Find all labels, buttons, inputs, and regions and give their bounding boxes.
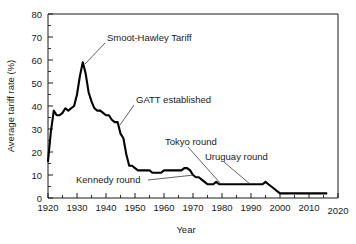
- x-tick-label-2000: 2000: [269, 202, 290, 213]
- x-tick-label-1920: 1920: [37, 202, 58, 213]
- annotation-kennedy: Kennedy round: [76, 174, 140, 185]
- y-tick-label-50: 50: [31, 78, 42, 89]
- y-tick-label-20: 20: [31, 147, 42, 158]
- annotation-tokyo: Tokyo round: [165, 136, 217, 147]
- y-axis-title: Average tariff rate (%): [5, 60, 16, 153]
- y-axis-tick-labels: 0 10 20 30 40 50 60 70 80: [31, 9, 42, 204]
- x-tick-label-2010: 2010: [298, 202, 319, 213]
- x-tick-label-1970: 1970: [182, 202, 203, 213]
- x-tick-label-1980: 1980: [211, 202, 232, 213]
- tariff-rate-chart-figure: 0 10 20 30 40 50 60 70 80 1920 1930 1940…: [0, 0, 356, 244]
- x-tick-label-1950: 1950: [124, 202, 145, 213]
- x-tick-label-1940: 1940: [95, 202, 116, 213]
- x-axis-title: Year: [176, 224, 195, 235]
- y-tick-label-30: 30: [31, 124, 42, 135]
- x-tick-label-1990: 1990: [240, 202, 261, 213]
- y-tick-label-40: 40: [31, 101, 42, 112]
- y-tick-label-80: 80: [31, 9, 42, 20]
- chart-canvas: 0 10 20 30 40 50 60 70 80 1920 1930 1940…: [0, 0, 356, 244]
- annotation-smoot-hawley: Smoot-Hawley Tariff: [107, 32, 192, 43]
- y-tick-label-10: 10: [31, 170, 42, 181]
- x-tick-label-1930: 1930: [66, 202, 87, 213]
- annotation-uruguay: Uruguay round: [205, 151, 268, 162]
- x-tick-label-1960: 1960: [153, 202, 174, 213]
- x-tick-label-2020: 2020: [327, 205, 348, 216]
- y-tick-label-60: 60: [31, 55, 42, 66]
- annotation-gatt: GATT established: [136, 94, 211, 105]
- y-tick-label-70: 70: [31, 32, 42, 43]
